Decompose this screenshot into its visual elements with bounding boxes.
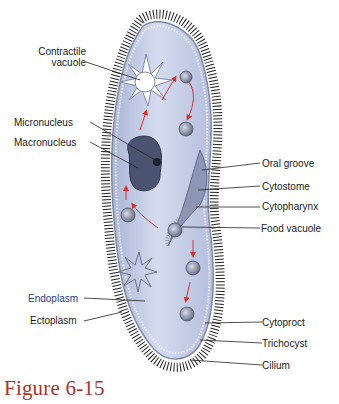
label-cilium: Cilium <box>262 360 290 371</box>
label-micronucleus: Micronucleus <box>14 117 73 128</box>
label-oral-groove: Oral groove <box>262 158 314 169</box>
label-cytostome: Cytostome <box>262 181 310 192</box>
label-line: vacuole <box>30 57 86 68</box>
label-food-vacuole: Food vacuole <box>261 223 321 234</box>
label-line: Contractile <box>30 46 86 57</box>
paramecium-diagram: Contractile vacuole Micronucleus Macronu… <box>0 0 339 404</box>
figure-caption: Figure 6-15 <box>4 376 105 401</box>
label-contractile-vacuole: Contractile vacuole <box>30 46 86 68</box>
label-trichocyst: Trichocyst <box>262 338 307 349</box>
label-cytopharynx: Cytopharynx <box>262 201 318 212</box>
label-endoplasm: Endoplasm <box>28 293 78 304</box>
label-macronucleus: Macronucleus <box>14 137 76 148</box>
label-ectoplasm: Ectoplasm <box>30 315 77 326</box>
label-cytoproct: Cytoproct <box>262 317 305 328</box>
